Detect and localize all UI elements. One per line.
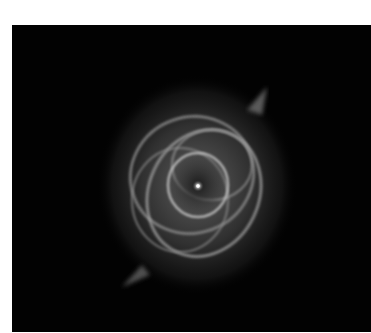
nebula-graphic: [12, 25, 371, 332]
nebula-photo: [12, 25, 371, 332]
